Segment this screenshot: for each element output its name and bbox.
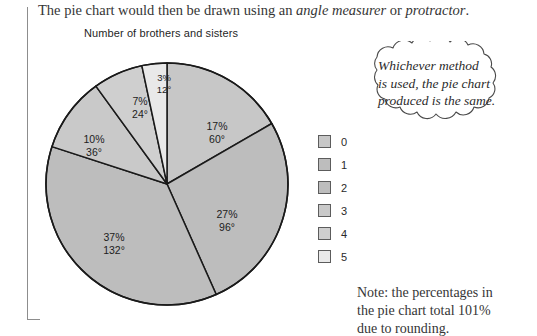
callout-line-2: is used, the pie chart	[378, 75, 518, 93]
chart-title: Number of brothers and sisters	[84, 27, 238, 39]
slice-label-0-percent: 17%	[188, 120, 246, 133]
slice-label-1-percent: 27%	[198, 208, 256, 221]
callout-text: Whichever method is used, the pie chart …	[378, 57, 518, 110]
slice-label-3-angle: 36°	[67, 146, 121, 159]
legend-item-5[interactable]: 5	[318, 245, 378, 268]
callout-bubble: Whichever method is used, the pie chart …	[357, 41, 533, 123]
legend-swatch-1-icon	[318, 158, 331, 171]
slice-label-2-angle: 132°	[85, 244, 143, 257]
legend-item-2[interactable]: 2	[318, 176, 378, 199]
legend-label-4: 4	[341, 228, 347, 240]
slice-label-0: 17% 60°	[188, 120, 246, 146]
callout-line-1: Whichever method	[378, 57, 518, 75]
legend-item-4[interactable]: 4	[318, 222, 378, 245]
slice-label-2: 37% 132°	[85, 231, 143, 257]
legend-swatch-3-icon	[318, 204, 331, 217]
pie-chart-svg	[43, 60, 291, 308]
slice-label-1-angle: 96°	[198, 221, 256, 234]
slice-label-5: 3% 12°	[146, 72, 182, 96]
legend-swatch-4-icon	[318, 227, 331, 240]
pie-slices	[46, 63, 288, 305]
legend-item-0[interactable]: 0	[318, 130, 378, 153]
slice-label-1: 27% 96°	[198, 208, 256, 234]
slice-label-2-percent: 37%	[85, 231, 143, 244]
callout-line-3: produced is the same.	[378, 92, 518, 110]
slice-label-4-angle: 24°	[116, 108, 164, 121]
pie-chart: 17% 60° 27% 96° 37% 132° 10% 36° 7% 24° …	[43, 60, 291, 308]
rounding-note-line-1: Note: the percentages in	[357, 284, 533, 302]
slice-label-3: 10% 36°	[67, 133, 121, 159]
legend-label-1: 1	[341, 159, 347, 171]
legend-swatch-0-icon	[318, 135, 331, 148]
legend-label-3: 3	[341, 205, 347, 217]
rounding-note-line-3: due to rounding.	[357, 320, 533, 336]
slice-label-3-percent: 10%	[67, 133, 121, 146]
slice-label-4: 7% 24°	[116, 95, 164, 121]
slice-label-5-percent: 3%	[146, 72, 182, 84]
legend-swatch-5-icon	[318, 250, 331, 263]
slice-label-4-percent: 7%	[116, 95, 164, 108]
rounding-note: Note: the percentages in the pie chart t…	[357, 284, 533, 336]
chart-legend: 0 1 2 3 4 5	[318, 130, 378, 268]
legend-item-1[interactable]: 1	[318, 153, 378, 176]
legend-label-0: 0	[341, 136, 347, 148]
slice-label-0-angle: 60°	[188, 133, 246, 146]
legend-label-2: 2	[341, 182, 347, 194]
slice-label-5-angle: 12°	[146, 84, 182, 96]
legend-item-3[interactable]: 3	[318, 199, 378, 222]
rounding-note-line-2: the pie chart total 101%	[357, 302, 533, 320]
legend-label-5: 5	[341, 251, 347, 263]
legend-swatch-2-icon	[318, 181, 331, 194]
